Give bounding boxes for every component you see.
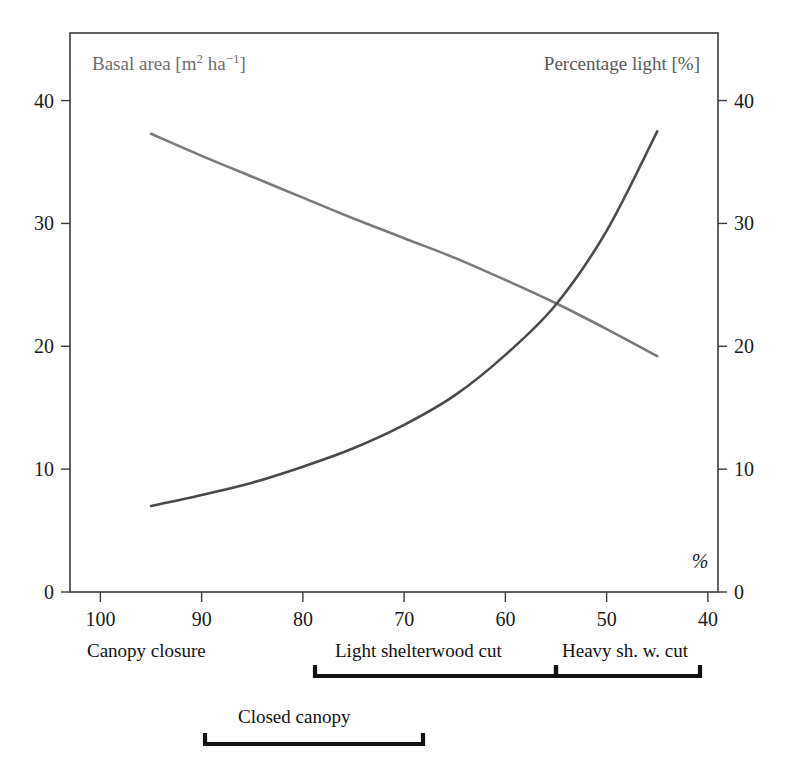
x-tick-label: 40: [698, 608, 718, 630]
percent-unit-annotation: %: [692, 550, 709, 572]
plot-annotations: %: [692, 550, 709, 572]
x-tick-label: 70: [394, 608, 414, 630]
left-axis-title-unit-open: [m: [175, 53, 196, 74]
left-axis-title-unit-mid: ha: [203, 53, 226, 74]
right-tick-label: 40: [734, 90, 754, 112]
right-tick-label: 0: [734, 581, 744, 603]
left-axis-title: Basal area [m2 ha−1]: [92, 51, 246, 74]
left-tick-label: 0: [44, 581, 54, 603]
x-tick-label: 90: [192, 608, 212, 630]
left-axis-title-name: Basal area: [92, 53, 171, 74]
left-axis-title-sup-2: −1: [226, 51, 240, 66]
chart-figure: Basal area [m2 ha−1] Percentage light [%…: [0, 0, 792, 773]
category-label-light-shelterwood-cut: Light shelterwood cut: [335, 640, 502, 661]
x-tick-label: 100: [85, 608, 115, 630]
right-tick-label: 20: [734, 335, 754, 357]
left-tick-label: 20: [34, 335, 54, 357]
x-tick-label: 60: [495, 608, 515, 630]
right-tick-label: 10: [734, 458, 754, 480]
category-label-closed-canopy: Closed canopy: [238, 706, 351, 727]
category-label-heavy-sh-w-cut: Heavy sh. w. cut: [562, 640, 689, 661]
right-axis-title: Percentage light [%]: [544, 53, 700, 74]
left-tick-label: 40: [34, 90, 54, 112]
left-tick-label: 10: [34, 458, 54, 480]
category-label-canopy-closure: Canopy closure: [87, 640, 206, 661]
x-tick-label: 50: [597, 608, 617, 630]
left-tick-label: 30: [34, 212, 54, 234]
left-axis-title-unit-close: ]: [239, 53, 245, 74]
right-tick-label: 30: [734, 212, 754, 234]
x-tick-label: 80: [293, 608, 313, 630]
